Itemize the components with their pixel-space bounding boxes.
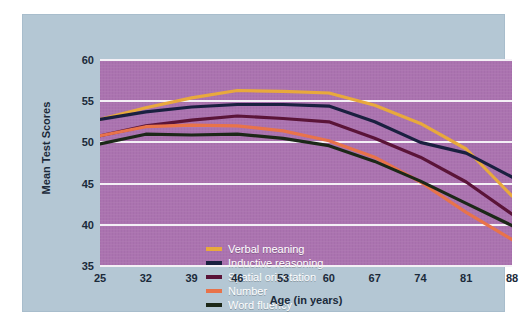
x-tick-label: 67 [355,272,395,284]
chart-figure: Mean Test Scores 354045505560 Verbal mea… [22,14,505,312]
y-tick-label: 55 [68,96,94,107]
x-tick-label: 88 [492,272,523,284]
legend-item: Verbal meaning [206,242,323,255]
series-lines [100,60,512,266]
x-tick-label: 25 [80,272,120,284]
plot-area: Verbal meaningInductive reasoningSpatial… [100,60,512,266]
y-tick-label: 45 [68,179,94,190]
x-tick-label: 53 [263,272,303,284]
x-tick-label: 39 [172,272,212,284]
x-tick-label: 74 [400,272,440,284]
y-axis-tick-labels: 354045505560 [66,60,94,266]
legend-swatch [206,247,222,251]
legend-swatch [206,289,222,293]
y-tick-label: 40 [68,220,94,231]
y-tick-label: 60 [68,55,94,66]
x-axis-tick-labels: 25323946536067748188 [100,272,512,288]
series-line [100,116,512,214]
legend-label: Inductive reasoning [228,257,323,269]
x-tick-label: 81 [446,272,486,284]
x-tick-label: 46 [217,272,257,284]
y-tick-label: 35 [68,261,94,272]
legend-swatch [206,261,222,265]
y-axis-title: Mean Test Scores [40,88,52,208]
x-tick-label: 60 [309,272,349,284]
x-axis-title: Age (in years) [100,294,512,306]
legend-label: Verbal meaning [228,243,304,255]
legend-item: Inductive reasoning [206,256,323,269]
y-tick-label: 50 [68,137,94,148]
x-tick-label: 32 [126,272,166,284]
